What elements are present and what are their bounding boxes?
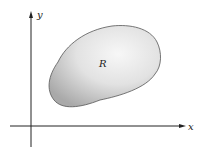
x-axis-arrow-icon [179,124,186,128]
y-axis-label: y [36,9,43,20]
y-axis-arrow-icon [29,11,33,18]
x-axis-label: x [188,121,194,132]
diagram-canvas: R y x [0,0,202,154]
x-axis [10,124,186,128]
region-label: R [98,58,107,69]
y-axis [29,11,33,147]
